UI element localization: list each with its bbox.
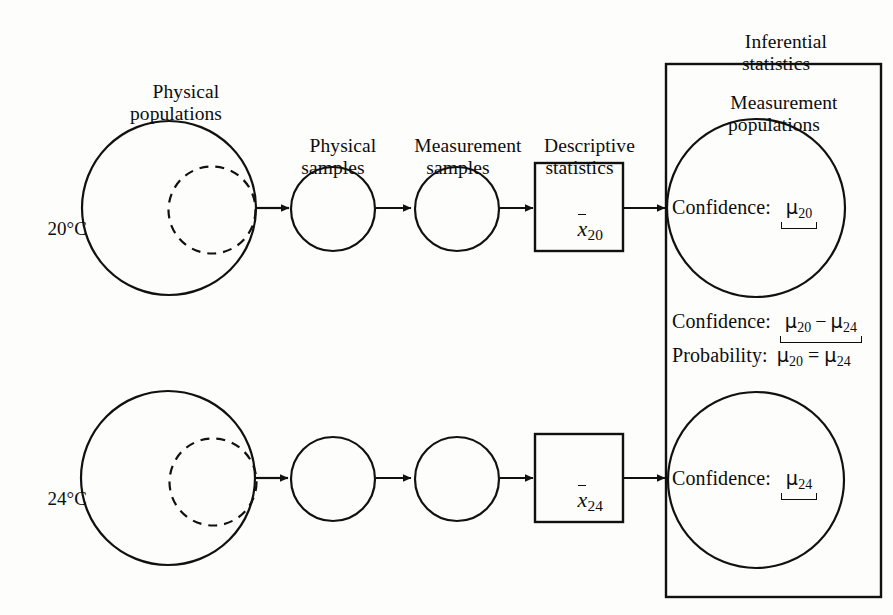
x-bar-glyph-24: x bbox=[578, 487, 588, 512]
heading-inferential-statistics-line1: Inferential statistics bbox=[742, 31, 827, 74]
physical-population-circle-20 bbox=[82, 121, 256, 295]
heading-measurement-samples: Measurement samples bbox=[388, 113, 528, 200]
mu-subscript-eq-a: 20 bbox=[789, 354, 803, 369]
heading-measurement-samples-line1: Measurement samples bbox=[414, 135, 521, 178]
mu-subscript-eq-b: 24 bbox=[837, 354, 851, 369]
physical-sample-circle-24 bbox=[291, 437, 375, 521]
physical-population-circle-24 bbox=[81, 391, 255, 565]
heading-physical-populations-line1: Physical populations bbox=[130, 81, 222, 124]
confidence-expression-brace-24: μ24 bbox=[781, 467, 817, 500]
comparison-probability-operator: = bbox=[808, 344, 819, 366]
heading-physical-samples-line1: Physical samples bbox=[301, 135, 376, 178]
mu-glyph-diff-a: μ bbox=[785, 310, 797, 333]
measurement-sample-circle-24 bbox=[415, 437, 499, 521]
heading-descriptive-statistics-line1: Descriptive statistics bbox=[544, 135, 635, 178]
comparison-confidence-operator: − bbox=[815, 310, 826, 332]
comparison-probability-equality: Probability:μ20=μ24 bbox=[672, 344, 851, 370]
heading-descriptive-statistics: Descriptive statistics bbox=[513, 113, 646, 200]
comparison-probability-label: Probability: bbox=[672, 344, 768, 366]
mu-glyph-20: μ bbox=[786, 196, 798, 219]
mu-glyph-eq-a: μ bbox=[777, 344, 789, 367]
confidence-statement-20: Confidence:μ20 bbox=[672, 196, 817, 229]
mu-glyph-diff-b: μ bbox=[831, 310, 843, 333]
x-bar-glyph-20: x bbox=[578, 216, 588, 241]
mu-glyph-eq-b: μ bbox=[824, 344, 836, 367]
heading-physical-populations: Physical populations bbox=[106, 59, 246, 146]
heading-physical-samples: Physical samples bbox=[268, 113, 398, 200]
descriptive-statistic-symbol-24: x24 bbox=[535, 463, 623, 539]
comparison-confidence-difference: Confidence:μ20−μ24 bbox=[672, 310, 862, 343]
x-bar-subscript-20: 20 bbox=[587, 226, 602, 243]
physical-population-subset-dashed-24 bbox=[170, 439, 257, 526]
temperature-label-24-text: 24°C bbox=[47, 488, 87, 509]
descriptive-statistic-symbol-20: x20 bbox=[535, 192, 623, 268]
x-bar-subscript-24: 24 bbox=[587, 497, 602, 514]
mu-glyph-24: μ bbox=[786, 467, 798, 490]
heading-measurement-populations: Measurement populations bbox=[674, 70, 874, 157]
mu-subscript-diff-a: 20 bbox=[797, 320, 811, 335]
confidence-label-20: Confidence: bbox=[672, 196, 771, 218]
mu-subscript-diff-b: 24 bbox=[843, 320, 857, 335]
comparison-confidence-label: Confidence: bbox=[672, 310, 771, 332]
comparison-confidence-expression-brace: μ20−μ24 bbox=[780, 310, 862, 343]
confidence-expression-brace-20: μ20 bbox=[781, 196, 817, 229]
temperature-label-20: 20°C bbox=[28, 197, 98, 261]
diagram-canvas: Physical populations Physical samples Me… bbox=[0, 0, 893, 615]
heading-measurement-populations-line1: Measurement populations bbox=[728, 92, 838, 135]
mu-subscript-20: 20 bbox=[798, 206, 812, 221]
mu-subscript-24: 24 bbox=[798, 477, 812, 492]
temperature-label-24: 24°C bbox=[28, 467, 98, 531]
confidence-label-24: Confidence: bbox=[672, 467, 771, 489]
confidence-statement-24: Confidence:μ24 bbox=[672, 467, 817, 500]
temperature-label-20-text: 20°C bbox=[47, 218, 87, 239]
physical-population-subset-dashed-20 bbox=[169, 167, 256, 254]
